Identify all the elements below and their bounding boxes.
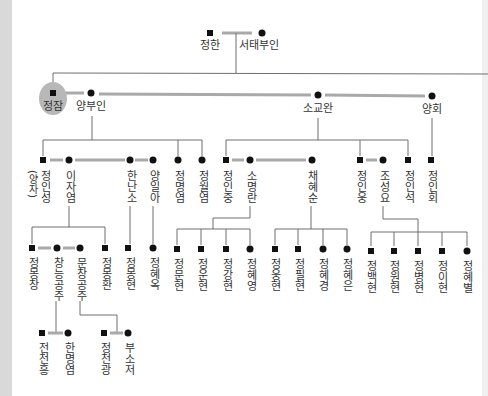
- male-marker-icon: [368, 248, 374, 254]
- person-name-highlighted: 정잠: [43, 101, 63, 112]
- person-name: 정인회: [426, 170, 437, 203]
- female-marker-icon: [344, 246, 351, 253]
- female-marker-icon: [380, 157, 387, 164]
- person-name: 정원현: [388, 260, 399, 293]
- person-name: 양부인: [76, 101, 106, 112]
- male-marker-icon: [223, 157, 229, 163]
- person-name: 정문현: [172, 258, 183, 291]
- person-name: 한명염: [63, 342, 74, 375]
- person-name: 문창공주: [75, 257, 86, 301]
- adopted-annotation: (양자): [27, 170, 37, 198]
- person-name: 정혜은: [341, 258, 352, 291]
- female-marker-icon: [150, 157, 157, 164]
- male-marker-icon: [415, 248, 421, 254]
- person-name: 정운현: [196, 258, 207, 291]
- female-marker-icon: [315, 92, 322, 99]
- person-name: 정인성: [39, 170, 50, 203]
- female-marker-icon: [247, 246, 254, 253]
- male-marker-icon: [357, 157, 363, 163]
- person-name: 이자염: [64, 170, 75, 203]
- female-marker-icon: [66, 157, 73, 164]
- female-marker-icon: [199, 157, 206, 164]
- male-marker-icon: [207, 30, 213, 36]
- female-marker-icon: [464, 248, 471, 255]
- female-marker-icon: [127, 157, 134, 164]
- person-name: 정백현: [365, 260, 376, 293]
- person-name: 정필현: [293, 258, 304, 291]
- female-marker-icon: [65, 330, 72, 337]
- female-marker-icon: [150, 245, 157, 252]
- person-name: 채혜순: [306, 170, 317, 203]
- person-name: 정몽현: [124, 257, 135, 290]
- person-name: 정이현: [436, 260, 447, 293]
- male-marker-icon: [50, 90, 56, 96]
- male-marker-icon: [29, 245, 35, 251]
- male-marker-icon: [272, 246, 278, 252]
- person-name: 정몽환: [100, 257, 111, 290]
- person-name: 소명란: [245, 170, 256, 203]
- person-name: 정월염: [197, 170, 208, 203]
- person-name: 정병현: [412, 260, 423, 293]
- female-marker-icon: [54, 245, 61, 252]
- male-marker-icon: [439, 248, 445, 254]
- person-name: 정인중: [221, 170, 232, 203]
- female-marker-icon: [125, 330, 132, 337]
- person-name: 부소저: [123, 342, 134, 375]
- person-name: 한난소: [125, 170, 136, 203]
- female-marker-icon: [175, 157, 182, 164]
- person-name: 정인석: [403, 170, 414, 203]
- marriage-line: [99, 94, 311, 95]
- person-name: 정혜별: [461, 260, 472, 293]
- person-name: 정몽창: [27, 257, 38, 290]
- male-marker-icon: [198, 246, 204, 252]
- male-marker-icon: [174, 246, 180, 252]
- male-marker-icon: [40, 157, 46, 163]
- marriage-line: [325, 95, 425, 96]
- person-name: 정명염: [173, 170, 184, 203]
- male-marker-icon: [125, 245, 131, 251]
- male-marker-icon: [223, 246, 229, 252]
- female-marker-icon: [247, 157, 254, 164]
- male-marker-icon: [101, 330, 107, 336]
- person-name: 소교완: [303, 103, 333, 114]
- female-marker-icon: [77, 245, 84, 252]
- female-marker-icon: [88, 90, 95, 97]
- male-marker-icon: [405, 157, 411, 163]
- person-name: 양일아: [148, 170, 159, 203]
- male-marker-icon: [102, 245, 108, 251]
- person-name: 정웅현: [269, 258, 280, 291]
- person-name: 정혜옥: [148, 257, 159, 290]
- female-marker-icon: [259, 30, 266, 37]
- person-name: 정한: [200, 40, 220, 51]
- sibling-line: [53, 73, 488, 74]
- person-name: 양회: [422, 104, 442, 115]
- male-marker-icon: [428, 157, 434, 163]
- male-marker-icon: [391, 248, 397, 254]
- person-name: 전천흥: [37, 342, 48, 375]
- person-name: 서태부인: [239, 40, 279, 51]
- male-marker-icon: [295, 246, 301, 252]
- person-name: 정천광: [99, 342, 110, 375]
- person-name: 정혜경: [317, 258, 328, 291]
- male-marker-icon: [39, 330, 45, 336]
- female-marker-icon: [429, 93, 436, 100]
- person-name: 정혜영: [245, 258, 256, 291]
- female-marker-icon: [309, 157, 316, 164]
- person-name: 정강현: [221, 258, 232, 291]
- person-name: 조성요: [378, 170, 389, 203]
- person-name: 창능공주: [52, 257, 63, 301]
- person-name: 정인웅: [355, 170, 366, 203]
- female-marker-icon: [320, 246, 327, 253]
